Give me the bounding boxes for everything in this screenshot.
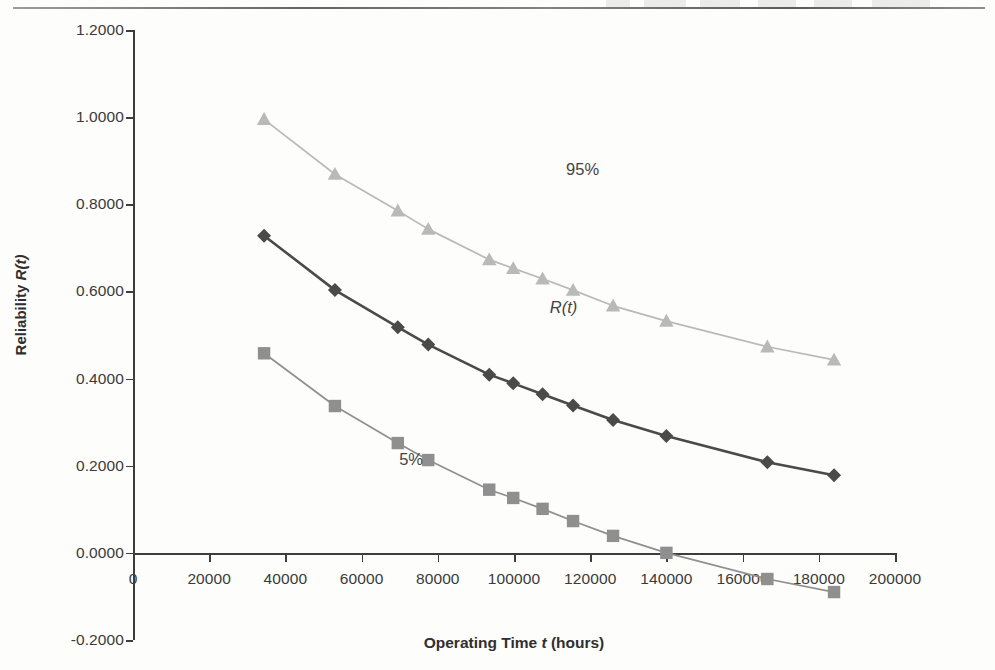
square-marker	[422, 454, 434, 466]
triangle-marker	[421, 222, 435, 235]
y-axis-title-plain: Reliability	[12, 280, 29, 355]
series-label-upper: 95%	[566, 160, 599, 179]
y-tick	[126, 379, 133, 381]
x-tick	[895, 553, 897, 562]
triangle-marker	[535, 272, 549, 285]
series-5	[258, 347, 840, 598]
series-layer	[133, 30, 895, 640]
square-marker	[761, 573, 773, 585]
series-rt	[257, 229, 841, 483]
series-95	[257, 112, 841, 365]
y-tick-label: 0.0000	[76, 544, 124, 562]
y-axis-title-math: R(t)	[12, 255, 29, 281]
y-tick-label: -0.2000	[71, 631, 124, 649]
y-tick-label: 1.2000	[76, 21, 124, 39]
y-tick	[126, 30, 133, 32]
faint-header-text	[600, 0, 980, 7]
plot-area: 1.20001.00000.80000.60000.40000.20000.00…	[133, 30, 895, 640]
series-line	[264, 353, 834, 592]
triangle-marker	[482, 252, 496, 265]
diamond-marker	[827, 468, 841, 482]
x-axis-title-plain-2: (hours)	[547, 634, 605, 651]
square-marker	[329, 400, 341, 412]
square-marker	[507, 492, 519, 504]
diamond-marker	[421, 338, 435, 352]
y-tick	[126, 117, 133, 119]
series-label-middle: R(t)	[550, 297, 578, 316]
triangle-marker	[328, 167, 342, 180]
y-tick	[126, 640, 133, 642]
y-tick	[126, 466, 133, 468]
triangle-marker	[606, 299, 620, 312]
x-axis-title-plain-1: Operating Time	[424, 634, 542, 651]
diamond-marker	[566, 399, 580, 413]
square-marker	[607, 530, 619, 542]
y-tick	[126, 553, 133, 555]
diamond-marker	[760, 455, 774, 469]
triangle-marker	[257, 112, 271, 125]
square-marker	[258, 347, 270, 359]
square-marker	[828, 586, 840, 598]
square-marker	[483, 483, 495, 495]
y-tick-label: 0.2000	[76, 457, 124, 475]
triangle-marker	[506, 261, 520, 274]
diamond-marker	[606, 413, 620, 427]
series-line	[264, 119, 834, 360]
series-line	[264, 236, 834, 476]
y-tick	[126, 291, 133, 293]
square-marker	[660, 547, 672, 559]
triangle-marker	[566, 283, 580, 296]
y-axis-title: Reliability R(t)	[8, 0, 34, 610]
square-marker	[392, 437, 404, 449]
series-label-lower: 5%	[399, 450, 423, 469]
square-marker	[567, 515, 579, 527]
y-tick-label: 1.0000	[76, 108, 124, 126]
square-marker	[536, 503, 548, 515]
y-tick	[126, 204, 133, 206]
y-tick-label: 0.6000	[76, 282, 124, 300]
page-top-rule	[13, 7, 985, 9]
diamond-marker	[482, 368, 496, 382]
diamond-marker	[536, 387, 550, 401]
triangle-marker	[391, 204, 405, 217]
chart-page: Reliability R(t) 1.20001.00000.80000.600…	[0, 0, 995, 670]
y-tick-label: 0.8000	[76, 195, 124, 213]
diamond-marker	[659, 429, 673, 443]
diamond-marker	[391, 320, 405, 334]
diamond-marker	[506, 376, 520, 390]
y-tick-label: 0.4000	[76, 370, 124, 388]
x-axis-title: Operating Time t (hours)	[133, 634, 895, 652]
